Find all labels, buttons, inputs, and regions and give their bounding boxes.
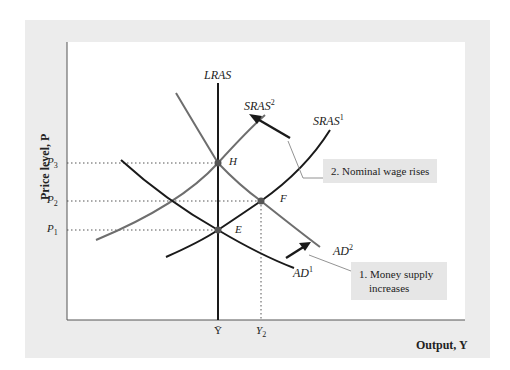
sras1-label-sup: 1	[340, 113, 344, 122]
callout-money-supply-line1: 1. Money supply	[359, 267, 439, 281]
point-e	[215, 227, 222, 234]
tick-p1: P1	[47, 222, 58, 237]
sras2-label: SRAS2	[244, 98, 275, 114]
tick-y2-sub: 2	[262, 330, 266, 339]
tick-y2: Y2	[256, 324, 266, 339]
tick-p3-sub: 3	[54, 161, 58, 170]
point-f	[258, 198, 265, 205]
x-axis-label: Output, Y	[416, 338, 468, 353]
point-h	[215, 160, 222, 167]
callout-nominal-wage: 2. Nominal wage rises	[323, 159, 437, 183]
tick-ybar: Ȳ	[214, 324, 222, 336]
callout-money-supply: 1. Money supply increases	[351, 262, 447, 300]
ad2-label: AD2	[333, 243, 353, 259]
y-axis-label: Price level, P	[38, 90, 58, 200]
tick-p3-base: P	[47, 155, 54, 167]
ad-shift-arrow	[286, 246, 305, 258]
lras-label: LRAS	[204, 68, 231, 83]
tick-p2: P2	[47, 193, 58, 208]
ad1-curve	[121, 160, 294, 268]
as-ad-diagram	[0, 0, 510, 370]
ad2-label-sup: 2	[349, 243, 353, 252]
tick-p3: P3	[47, 155, 58, 170]
sras2-curve	[96, 115, 265, 240]
sras2-label-sup: 2	[271, 98, 275, 107]
tick-p2-sub: 2	[54, 199, 58, 208]
point-e-label: E	[235, 223, 242, 235]
sras1-label: SRAS1	[313, 113, 344, 129]
ad1-label: AD1	[293, 265, 313, 281]
callout-money-supply-line2: increases	[359, 281, 439, 295]
tick-p1-sub: 1	[54, 228, 58, 237]
ad1-label-name: AD	[293, 266, 309, 280]
point-f-label: F	[280, 192, 287, 204]
tick-p2-base: P	[47, 193, 54, 205]
ad1-label-sup: 1	[309, 265, 313, 274]
tick-p1-base: P	[47, 222, 54, 234]
point-h-label: H	[229, 155, 237, 167]
sras2-label-name: SRAS	[244, 99, 271, 113]
sras1-curve	[166, 130, 330, 257]
ad2-label-name: AD	[333, 244, 349, 258]
sras1-label-name: SRAS	[313, 114, 340, 128]
